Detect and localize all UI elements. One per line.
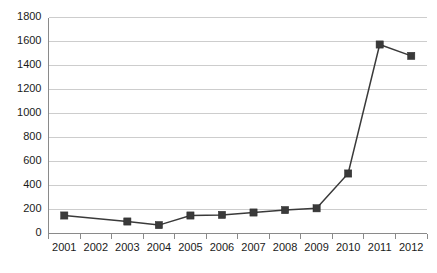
y-tick-label-200: 200 bbox=[23, 202, 41, 214]
x-tick-label-2011: 2011 bbox=[368, 241, 392, 253]
x-tick-label-2012: 2012 bbox=[399, 241, 423, 253]
data-marker-2007 bbox=[250, 209, 257, 216]
data-marker-2006 bbox=[218, 211, 225, 218]
y-tick-label-0: 0 bbox=[35, 226, 41, 238]
y-tick-label-1600: 1600 bbox=[17, 34, 41, 46]
x-tick-label-2005: 2005 bbox=[178, 241, 202, 253]
x-tick-label-2006: 2006 bbox=[210, 241, 234, 253]
x-tick-label-2007: 2007 bbox=[241, 241, 265, 253]
chart-background bbox=[0, 0, 437, 273]
x-tick-label-2003: 2003 bbox=[115, 241, 139, 253]
data-marker-2004 bbox=[155, 222, 162, 229]
data-marker-2011 bbox=[376, 41, 383, 48]
x-tick-label-2004: 2004 bbox=[147, 241, 171, 253]
x-tick-label-2008: 2008 bbox=[273, 241, 297, 253]
data-marker-2008 bbox=[281, 207, 288, 214]
data-marker-2012 bbox=[408, 52, 415, 59]
y-tick-label-1400: 1400 bbox=[17, 58, 41, 70]
y-tick-label-800: 800 bbox=[23, 130, 41, 142]
data-marker-2003 bbox=[124, 218, 131, 225]
x-tick-label-2001: 2001 bbox=[52, 241, 76, 253]
data-marker-2001 bbox=[61, 212, 68, 219]
y-tick-label-1200: 1200 bbox=[17, 82, 41, 94]
y-tick-label-1800: 1800 bbox=[17, 10, 41, 22]
data-marker-2009 bbox=[313, 205, 320, 212]
y-tick-label-1000: 1000 bbox=[17, 106, 41, 118]
x-tick-label-2002: 2002 bbox=[84, 241, 108, 253]
x-tick-label-2010: 2010 bbox=[336, 241, 360, 253]
y-tick-label-600: 600 bbox=[23, 154, 41, 166]
x-tick-label-2009: 2009 bbox=[304, 241, 328, 253]
data-marker-2005 bbox=[187, 212, 194, 219]
y-tick-label-400: 400 bbox=[23, 178, 41, 190]
line-chart: 020040060080010001200140016001800 200120… bbox=[0, 0, 437, 273]
chart-canvas: 020040060080010001200140016001800 200120… bbox=[0, 0, 437, 273]
data-marker-2010 bbox=[345, 170, 352, 177]
